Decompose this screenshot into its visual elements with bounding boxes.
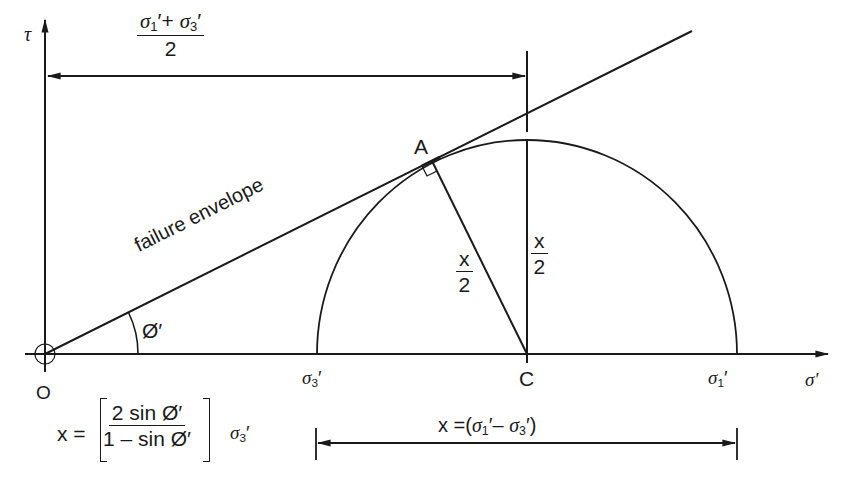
sigma-symbol: σ [472, 414, 482, 436]
prime: ′ [724, 367, 728, 388]
origin-label: O [36, 383, 51, 402]
sigma1-sub: 1 [150, 19, 157, 34]
formula-fraction: 2 sin Ø′ 1 – sin Ø′ [103, 402, 191, 449]
numerator: 2 sin Ø′ [109, 402, 185, 426]
angle-phi-label: Ø′ [142, 320, 162, 341]
top-dimension-fraction: σ1′+ σ3′ 2 [137, 10, 204, 59]
radius-label-vertical: x 2 [531, 230, 548, 277]
right-bracket [203, 398, 210, 462]
denominator: 2 [533, 254, 545, 277]
suffix: ) [530, 414, 537, 436]
denominator: 2 [165, 36, 177, 59]
minus-sign: – [492, 414, 503, 436]
numerator: x [456, 248, 473, 272]
sigma1-label: σ1′ [708, 368, 727, 389]
prime: ′ [318, 367, 322, 388]
denominator: 2 [458, 272, 470, 295]
sigma-symbol: σ [230, 422, 239, 443]
subscript: 3 [519, 424, 526, 438]
point-A-label: A [414, 136, 428, 157]
radius-label-AC: x 2 [456, 248, 473, 295]
tau-axis-label: τ [24, 24, 31, 44]
prime: ′ [246, 422, 250, 443]
sigma-symbol: σ [509, 414, 519, 436]
prime: ′ [197, 9, 201, 32]
centre-C-label: C [519, 368, 534, 389]
sigma1-symbol: σ [140, 9, 150, 33]
sigma3-symbol: σ [180, 9, 190, 33]
failure-envelope-line [45, 31, 692, 354]
sigma-symbol: σ [302, 367, 311, 388]
angle-arc [129, 313, 139, 355]
prefix: x =( [438, 414, 472, 436]
radius-AC [432, 161, 527, 354]
numerator: x [531, 230, 548, 254]
formula-lhs: x = [57, 423, 86, 444]
sigma-axis-label: σ′ [805, 370, 819, 389]
bottom-dimension-label: x =(σ1′– σ3′) [438, 415, 536, 438]
subscript: 1 [482, 424, 489, 438]
sigma3-label: σ3′ [302, 368, 321, 389]
denominator: 1 – sin Ø′ [103, 426, 191, 449]
plus-sign: + [162, 9, 174, 32]
formula-factor: σ3′ [230, 423, 249, 444]
sigma-symbol: σ [708, 367, 717, 388]
